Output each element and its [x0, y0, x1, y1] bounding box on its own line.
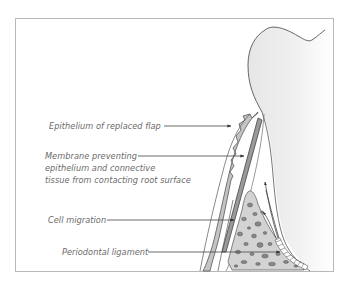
label-membrane-line1: Membrane preventing	[45, 151, 137, 162]
label-cell-migration: Cell migration	[48, 215, 106, 226]
tooth-diagram	[0, 0, 352, 291]
label-membrane-line2: epithelium and connective	[45, 163, 155, 174]
label-membrane-line3: tissue from contacting root surface	[45, 175, 191, 186]
label-periodontal-ligament: Periodontal ligament	[62, 247, 148, 258]
label-epithelium: Epithelium of replaced flap	[49, 121, 161, 132]
